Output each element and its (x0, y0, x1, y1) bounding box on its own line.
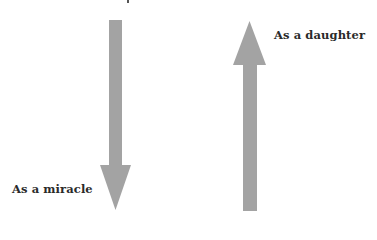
down-arrow-label: As a miracle (12, 182, 93, 196)
down-arrow (100, 20, 131, 210)
up-arrow (233, 21, 266, 211)
up-arrow-label: As a daughter (274, 28, 365, 42)
